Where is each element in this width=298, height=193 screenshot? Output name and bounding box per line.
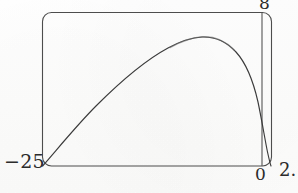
data-curve <box>43 37 271 166</box>
x-axis-zero-label: 0 <box>255 166 266 183</box>
x-axis-max-label: 2. <box>279 161 296 179</box>
figure-canvas: −25 0 2. 8 <box>0 0 298 193</box>
plot-frame <box>43 13 272 167</box>
data-curve-scan-echo <box>170 37 234 50</box>
y-axis-max-label: 8 <box>259 0 270 12</box>
x-axis-min-label: −25 <box>4 152 45 171</box>
